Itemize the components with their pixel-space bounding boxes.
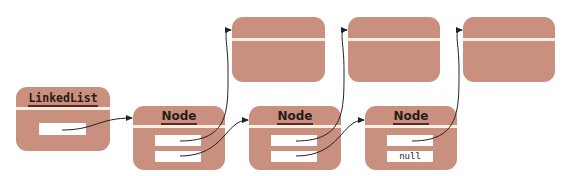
- data-object-3-divider: [463, 38, 555, 41]
- linkedlist-first-field: [39, 123, 86, 135]
- node-2-divider: [249, 125, 341, 128]
- data-object-3: [463, 17, 555, 82]
- node-3: Node null: [365, 106, 457, 170]
- node-1-divider: [133, 125, 225, 128]
- linkedlist-divider: [16, 107, 110, 110]
- node-2-title: Node: [249, 109, 341, 123]
- linkedlist-title: LinkedList: [16, 91, 110, 105]
- node-1: Node: [133, 106, 225, 170]
- node-3-divider: [365, 125, 457, 128]
- node-2-data-field: [271, 135, 317, 146]
- node-1-data-field: [155, 135, 201, 146]
- node-2-next-field: [271, 151, 317, 162]
- node-3-next-field: null: [387, 151, 433, 162]
- data-object-1: [232, 17, 325, 82]
- linkedlist-object: LinkedList: [16, 87, 110, 151]
- node-2: Node: [249, 106, 341, 170]
- node-3-data-field: [387, 135, 433, 146]
- data-object-1-divider: [232, 38, 325, 41]
- data-object-2: [348, 17, 440, 82]
- node-1-next-field: [155, 151, 201, 162]
- node-3-title: Node: [365, 109, 457, 123]
- node-1-title: Node: [133, 109, 225, 123]
- data-object-2-divider: [348, 38, 440, 41]
